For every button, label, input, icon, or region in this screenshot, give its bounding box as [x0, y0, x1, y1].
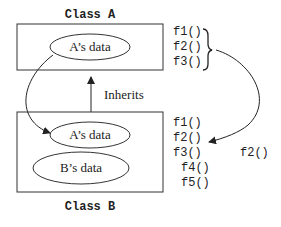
class-a-method-1: f1() [173, 25, 202, 39]
class-a-data-label: A’s data [69, 39, 111, 54]
class-a-title: Class A [65, 8, 116, 22]
inherits-label: Inherits [104, 87, 144, 102]
methods-brace-icon [203, 29, 212, 70]
class-a-method-2: f2() [173, 40, 202, 54]
class-b-method-2: f2() [173, 131, 202, 145]
inheritance-diagram: Class A A’s data f1() f2() f3() Inherits… [0, 0, 281, 227]
class-b-method-4: f4() [181, 161, 210, 175]
method-inheritance-arrow-icon [209, 50, 259, 142]
class-b-override-method: f2() [240, 146, 269, 160]
class-b-method-3: f3() [173, 146, 202, 160]
class-b-inherited-data-label: A’s data [69, 127, 111, 142]
class-a-method-3: f3() [173, 55, 202, 69]
class-b-method-5: f5() [181, 176, 210, 190]
class-b-own-data-label: B’s data [60, 160, 102, 175]
class-b-title: Class B [65, 200, 115, 214]
data-inheritance-arrow-icon [26, 55, 53, 133]
class-b-method-1: f1() [173, 116, 202, 130]
